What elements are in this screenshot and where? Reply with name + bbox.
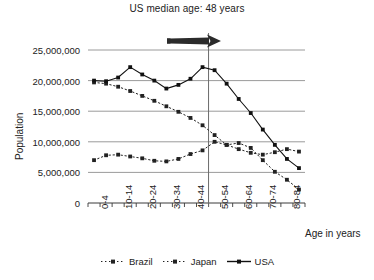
data-point-marker xyxy=(140,94,144,98)
data-point-marker xyxy=(201,148,205,152)
data-point-marker xyxy=(164,159,168,163)
data-point-marker xyxy=(189,116,193,120)
data-point-marker xyxy=(285,178,289,182)
x-axis-tick-label: 10-14 xyxy=(123,185,134,209)
legend-item-japan[interactable]: Japan xyxy=(162,256,217,267)
y-axis-tick-label: 15,000,000 xyxy=(10,106,80,117)
data-point-marker xyxy=(177,157,181,161)
legend-item-brazil[interactable]: Brazil xyxy=(100,256,153,267)
data-point-marker xyxy=(273,143,277,147)
data-point-marker xyxy=(285,147,289,151)
data-point-marker xyxy=(273,170,277,174)
data-point-marker xyxy=(249,111,253,115)
data-point-marker xyxy=(249,146,253,150)
data-point-marker xyxy=(213,68,217,72)
legend-label: Brazil xyxy=(129,256,153,267)
x-axis-tick-label: 60-64 xyxy=(243,185,254,209)
data-point-marker xyxy=(104,153,108,157)
data-point-marker xyxy=(177,83,181,87)
data-point-marker xyxy=(128,89,132,93)
x-axis-tick-label: 0-4 xyxy=(99,195,110,209)
data-point-marker xyxy=(128,65,132,69)
data-point-marker xyxy=(116,76,120,80)
data-point-marker xyxy=(225,82,229,86)
data-point-marker xyxy=(140,156,144,160)
data-point-marker xyxy=(273,150,277,154)
data-point-marker xyxy=(189,77,193,81)
legend-swatch-icon xyxy=(162,257,188,266)
data-point-marker xyxy=(261,128,265,132)
data-point-marker xyxy=(128,155,132,159)
x-axis-tick-label: 30-34 xyxy=(171,185,182,209)
chart-legend: BrazilJapanUSA xyxy=(0,256,374,267)
data-point-marker xyxy=(261,153,265,157)
data-point-marker xyxy=(237,147,241,151)
data-point-marker xyxy=(225,143,229,147)
y-axis-tick-label: 10,000,000 xyxy=(10,136,80,147)
x-axis-tick-label: 50-54 xyxy=(219,185,230,209)
y-axis-tick-label: 25,000,000 xyxy=(10,45,80,56)
data-point-marker xyxy=(152,159,156,163)
data-point-marker xyxy=(92,79,96,83)
data-point-marker xyxy=(237,97,241,101)
data-point-marker xyxy=(201,123,205,127)
data-point-marker xyxy=(152,79,156,83)
x-axis-tick-label: 20-24 xyxy=(147,185,158,209)
legend-label: USA xyxy=(255,256,275,267)
data-point-marker xyxy=(249,151,253,155)
y-axis-tick-label: 5,000,000 xyxy=(10,167,80,178)
data-point-marker xyxy=(104,79,108,83)
annotation-arrow-head xyxy=(207,35,221,48)
y-axis-tick-label: 0 xyxy=(10,198,80,209)
series-line-brazil xyxy=(94,142,299,162)
data-point-marker xyxy=(189,152,193,156)
data-point-marker xyxy=(201,65,205,69)
data-point-marker xyxy=(237,141,241,145)
data-point-marker xyxy=(213,140,217,144)
annotation-arrow-shaft xyxy=(170,38,209,45)
data-point-marker xyxy=(140,73,144,77)
data-point-marker xyxy=(261,158,265,162)
x-axis-tick-label: 40-44 xyxy=(195,185,206,209)
legend-swatch-icon xyxy=(226,257,252,266)
data-point-marker xyxy=(297,150,301,154)
y-axis-tick-label: 20,000,000 xyxy=(10,75,80,86)
x-axis-tick-label: 80-84 xyxy=(291,185,302,209)
data-point-marker xyxy=(116,153,120,157)
legend-label: Japan xyxy=(191,256,217,267)
data-point-marker xyxy=(297,166,301,170)
series-line-usa xyxy=(94,67,299,168)
legend-swatch-icon xyxy=(100,257,126,266)
data-point-marker xyxy=(213,133,217,137)
data-point-marker xyxy=(164,104,168,108)
x-axis-tick-label: 70-74 xyxy=(267,185,278,209)
data-point-marker xyxy=(116,85,120,89)
population-by-age-chart: US median age: 48 years Population Age i… xyxy=(0,0,374,280)
data-point-marker xyxy=(92,158,96,162)
annotation-arrow-tail xyxy=(167,38,170,44)
data-point-marker xyxy=(152,99,156,103)
legend-item-usa[interactable]: USA xyxy=(226,256,275,267)
data-point-marker xyxy=(285,157,289,161)
data-point-marker xyxy=(177,110,181,114)
data-point-marker xyxy=(164,87,168,91)
